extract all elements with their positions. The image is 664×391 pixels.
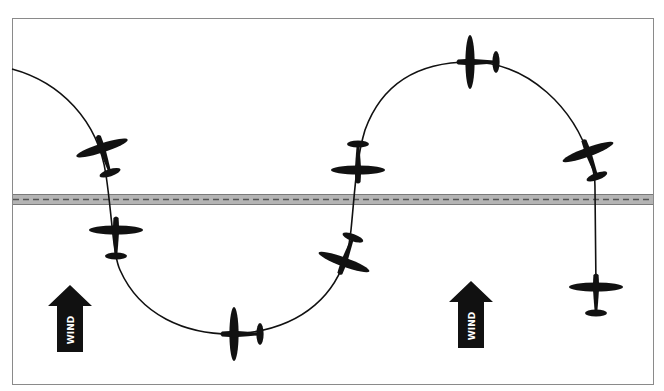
wind-label-right: WIND xyxy=(467,312,477,340)
s-turns-diagram: WIND WIND xyxy=(0,0,664,391)
wind-label-left: WIND xyxy=(66,316,76,344)
